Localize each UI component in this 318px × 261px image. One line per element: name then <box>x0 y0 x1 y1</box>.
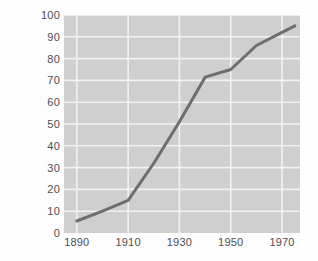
caption-sliver <box>0 256 318 261</box>
x-tick-label: 1910 <box>115 236 140 248</box>
y-tick-label: 80 <box>30 53 60 65</box>
y-tick-label: 70 <box>30 74 60 86</box>
x-tick-label: 1950 <box>218 236 243 248</box>
y-tick-label: 50 <box>30 118 60 130</box>
y-tick-label: 90 <box>30 31 60 43</box>
y-tick-label: 10 <box>30 205 60 217</box>
chart-figure: Percent of 14- to 17-year-olds enrolled … <box>0 0 318 261</box>
y-tick-label: 60 <box>30 96 60 108</box>
y-tick-label: 40 <box>30 140 60 152</box>
data-series-line <box>64 15 300 233</box>
y-tick-label: 20 <box>30 183 60 195</box>
x-tick-label: 1930 <box>167 236 192 248</box>
x-axis-tick-labels: 18901910193019501970 <box>64 236 300 254</box>
y-axis-tick-labels: 0102030405060708090100 <box>30 8 60 234</box>
plot-area <box>64 15 300 233</box>
x-tick-label: 1890 <box>64 236 89 248</box>
y-tick-label: 0 <box>30 227 60 239</box>
y-tick-label: 100 <box>30 9 60 21</box>
y-tick-label: 30 <box>30 162 60 174</box>
x-tick-label: 1970 <box>269 236 294 248</box>
